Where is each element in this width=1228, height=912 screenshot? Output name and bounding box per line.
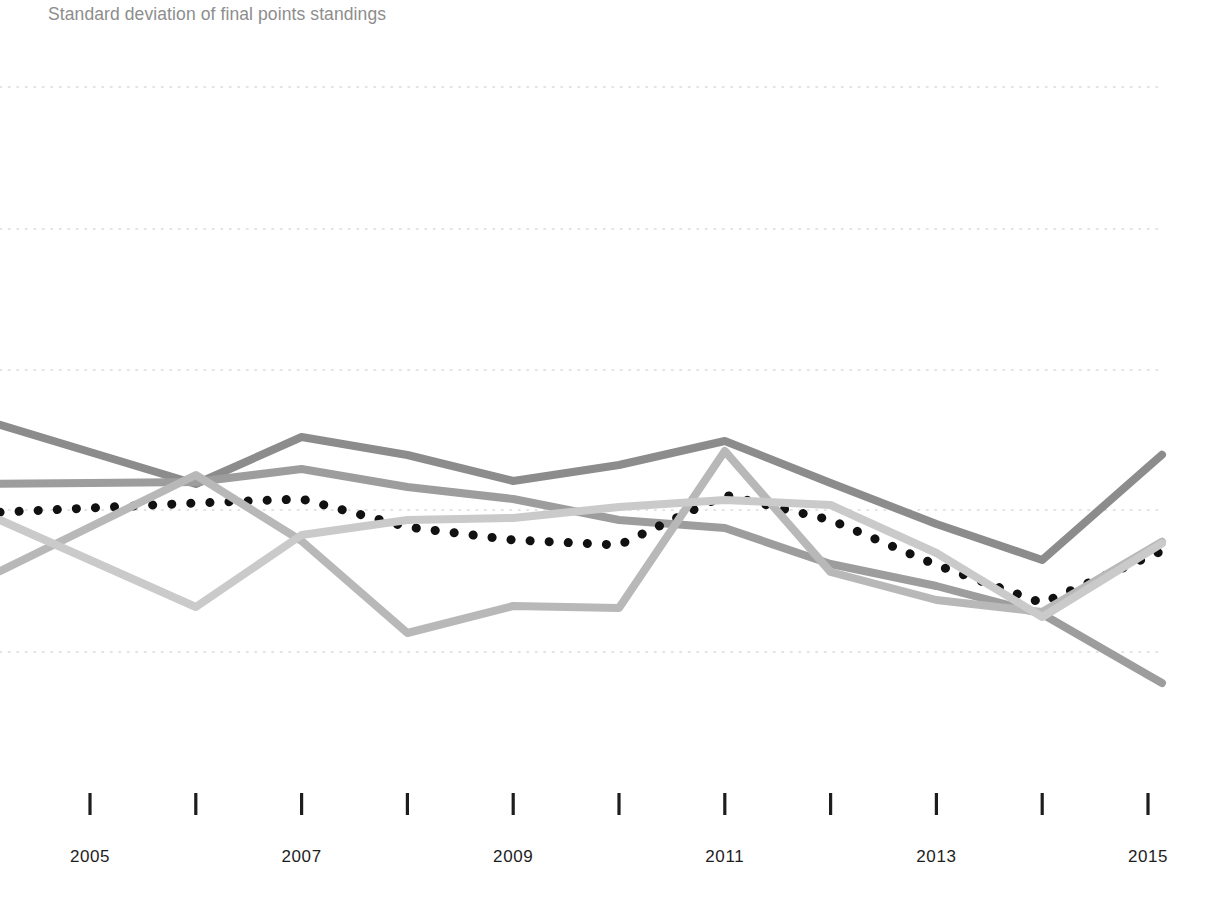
x-axis-labels-group: 200520072009201120132015 — [70, 847, 1168, 866]
x-axis-label: 2005 — [70, 847, 110, 866]
series-dark-gray — [0, 425, 1162, 560]
x-axis-label: 2015 — [1128, 847, 1168, 866]
series-group — [0, 425, 1162, 683]
line-chart: 200520072009201120132015 — [0, 0, 1228, 912]
gridlines-group — [0, 87, 1160, 652]
x-axis-ticks-group — [90, 793, 1148, 815]
chart-page: Standard deviation of final points stand… — [0, 0, 1228, 912]
x-axis-label: 2007 — [281, 847, 321, 866]
x-axis-label: 2009 — [493, 847, 533, 866]
x-axis-label: 2013 — [916, 847, 956, 866]
x-axis-label: 2011 — [705, 847, 744, 866]
